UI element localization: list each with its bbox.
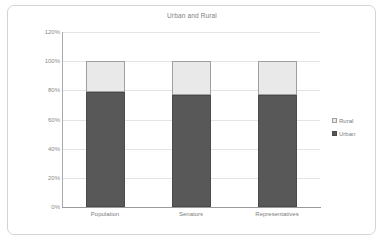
chart-legend: Rural Urban: [332, 114, 355, 140]
bar-segment-urban[interactable]: [86, 92, 125, 207]
legend-item-urban[interactable]: Urban: [332, 127, 355, 140]
bar-segment-rural[interactable]: [172, 61, 211, 95]
x-axis-label-senators: Senators: [179, 211, 203, 217]
bar-column-representatives[interactable]: [258, 32, 297, 207]
x-axis-line: [62, 207, 321, 208]
bar-segment-rural[interactable]: [258, 61, 297, 95]
bar-segment-urban[interactable]: [258, 95, 297, 207]
y-axis-tick-label: 120%: [0, 29, 60, 35]
legend-item-rural[interactable]: Rural: [332, 114, 355, 127]
legend-label-rural: Rural: [339, 118, 353, 124]
bar-segment-rural[interactable]: [86, 61, 125, 92]
bar-column-population[interactable]: [86, 32, 125, 207]
x-axis-label-population: Population: [91, 211, 119, 217]
y-axis-tick-labels: 0%20%40%60%80%100%120%: [0, 0, 60, 242]
y-axis-line: [62, 32, 63, 208]
x-axis-label-representatives: Representatives: [255, 211, 298, 217]
y-axis-tick-label: 20%: [0, 175, 60, 181]
y-axis-tick-label: 100%: [0, 58, 60, 64]
y-axis-tick-label: 80%: [0, 87, 60, 93]
legend-swatch-urban-icon: [332, 131, 337, 136]
y-axis-tick-label: 60%: [0, 117, 60, 123]
y-axis-tick-label: 0%: [0, 204, 60, 210]
legend-swatch-rural-icon: [332, 118, 337, 123]
chart-container: Urban and Rural 0%20%40%60%80%100%120% P…: [0, 0, 384, 242]
legend-label-urban: Urban: [339, 131, 355, 137]
bar-segment-urban[interactable]: [172, 95, 211, 207]
y-axis-tick-label: 40%: [0, 146, 60, 152]
bar-column-senators[interactable]: [172, 32, 211, 207]
plot-area: [62, 32, 320, 207]
